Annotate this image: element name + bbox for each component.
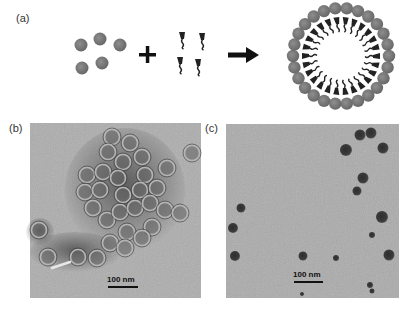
arrow-right-icon [228, 47, 259, 63]
scale-bar-c [294, 281, 323, 283]
figure-canvas: 100 nm 100 nm [0, 0, 408, 309]
micelle-ring-assembly [287, 2, 395, 110]
scale-bar-label-c: 100 nm [293, 270, 321, 279]
schematic-panel-a [75, 2, 396, 110]
free-nanoparticles [75, 33, 127, 75]
free-surfactants [177, 32, 205, 76]
tem-image-c: 100 nm [226, 124, 399, 298]
tem-image-b: 100 nm [26, 123, 201, 298]
plus-icon [139, 46, 156, 63]
scale-bar-b [108, 286, 138, 288]
scale-bar-label-b: 100 nm [107, 275, 135, 284]
